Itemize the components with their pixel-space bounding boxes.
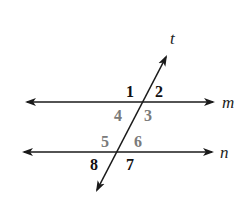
angle-8-label: 8 xyxy=(90,156,98,173)
angle-4-label: 4 xyxy=(114,107,122,124)
line-n-label: n xyxy=(220,143,229,162)
angle-1-label: 1 xyxy=(126,83,134,100)
transversal-t-label: t xyxy=(170,29,176,48)
parallel-lines-diagram: m n t 1 2 3 4 5 6 7 8 xyxy=(0,0,245,204)
angle-6-label: 6 xyxy=(134,133,142,150)
line-m-label: m xyxy=(222,93,234,112)
angle-2-label: 2 xyxy=(155,83,163,100)
angle-5-label: 5 xyxy=(101,133,109,150)
angle-3-label: 3 xyxy=(144,107,152,124)
angle-7-label: 7 xyxy=(126,156,134,173)
